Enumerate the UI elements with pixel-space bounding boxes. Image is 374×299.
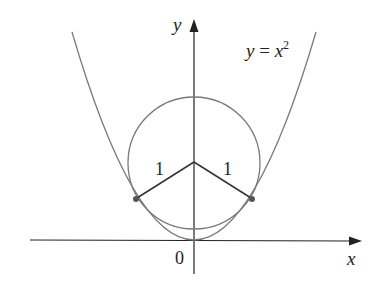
equation-lhs: y <box>244 40 255 61</box>
tangent-point-left <box>133 196 139 202</box>
x-axis-label: x <box>346 248 356 269</box>
radius-left <box>137 162 194 198</box>
equation-equals: = <box>254 40 274 61</box>
diagram-canvas: y x 0 1 1 y = x2 <box>0 0 374 299</box>
curve-equation-label: y = x2 <box>244 38 289 61</box>
y-axis-arrow-icon <box>190 19 199 32</box>
radius-label-right: 1 <box>223 159 232 179</box>
radius-label-left: 1 <box>155 159 164 179</box>
y-axis-label: y <box>171 14 182 35</box>
equation-exponent: 2 <box>283 38 289 52</box>
diagram-svg: y x 0 1 1 y = x2 <box>0 0 374 299</box>
tangent-point-right <box>249 196 255 202</box>
origin-label: 0 <box>175 248 184 268</box>
x-axis-arrow-icon <box>349 237 362 246</box>
